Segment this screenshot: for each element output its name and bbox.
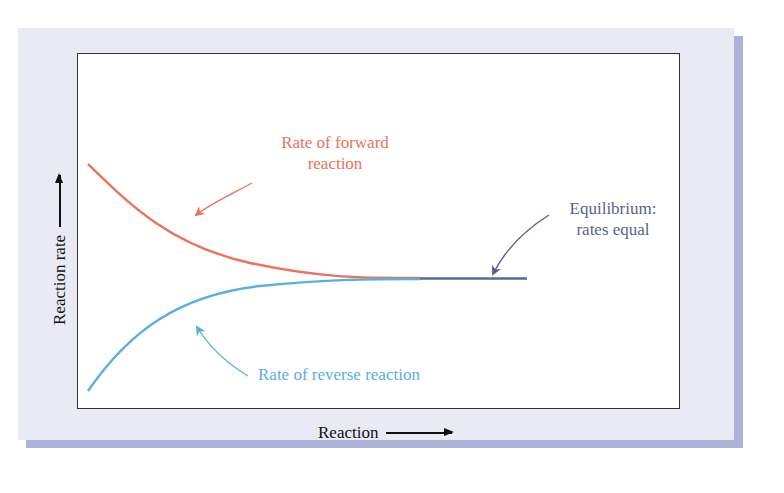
equilibrium-label: Equilibrium: rates equal [553,198,673,240]
reverse-rate-label: Rate of reverse reaction [258,364,420,385]
x-axis-arrow-icon [386,432,452,433]
rate-curves [0,0,784,493]
reverse-rate-label-text: Rate of reverse reaction [258,365,420,384]
x-axis-label-text: Reaction [318,423,378,443]
forward-rate-label: Rate of forward reaction [255,132,415,174]
forward-rate-label-line2: reaction [255,153,415,174]
forward-pointer-arrow [196,183,252,215]
y-axis-label-text: Reaction rate [50,235,70,325]
y-axis-arrow-icon [59,175,60,227]
y-axis-label: Reaction rate [50,175,70,325]
equilibrium-label-line2: rates equal [553,219,673,240]
forward-rate-curve [88,164,420,278]
equilibrium-label-line1: Equilibrium: [553,198,673,219]
reverse-pointer-arrow [197,327,248,376]
equilibrium-pointer-arrow [493,215,549,274]
x-axis-label: Reaction [318,423,452,443]
forward-rate-label-line1: Rate of forward [255,132,415,153]
